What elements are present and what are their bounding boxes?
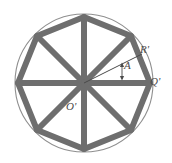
figure-canvas: [0, 0, 172, 163]
radius-line-r-prime: [84, 54, 142, 83]
label-vertex-q-prime: Q': [150, 76, 160, 87]
geometry-figure: R' Q' A O': [0, 0, 172, 163]
spoke-lower-left: [37, 83, 84, 130]
spoke-upper-left: [37, 36, 84, 83]
label-center-o-prime: O': [66, 101, 76, 112]
label-angle-a: A: [124, 60, 131, 71]
spoke-lower-right: [84, 83, 131, 130]
label-radius-r-prime: R': [140, 44, 149, 55]
angle-arrowhead-bottom: [120, 76, 124, 81]
